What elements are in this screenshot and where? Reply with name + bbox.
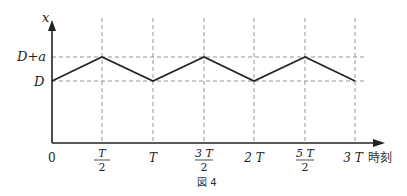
axes — [52, 28, 374, 143]
x-tick-3T: 3 T — [343, 151, 363, 165]
horizontal-gridlines — [52, 57, 365, 81]
x-tick-half-num: T — [98, 147, 107, 160]
y-axis-label: x — [42, 10, 50, 25]
x-axis-label: 時刻 — [368, 151, 392, 165]
x-tick-T: T — [149, 151, 158, 165]
x-tick-half-den: 2 — [99, 161, 106, 174]
x-tick-5half-den: 2 — [302, 161, 309, 174]
y-level-lower-label: D — [33, 74, 45, 89]
x-axis-arrow-icon — [373, 139, 385, 147]
vertical-gridlines — [102, 18, 355, 143]
x-tick-2T: 2 T — [243, 151, 264, 165]
triangle-wave-line — [52, 57, 355, 81]
triangle-wave-diagram: x D+a D 0 T 2 T 3 T 2 2 T 5 T 2 3 T 時刻 図… — [0, 0, 407, 196]
x-tick-0: 0 — [48, 151, 56, 165]
y-level-upper-label: D+a — [16, 49, 46, 64]
x-tick-3half-den: 2 — [201, 161, 208, 174]
x-tick-3half-num: 3 T — [195, 147, 214, 160]
x-tick-5half-num: 5 T — [296, 147, 315, 160]
figure-caption: 図 4 — [197, 177, 217, 188]
